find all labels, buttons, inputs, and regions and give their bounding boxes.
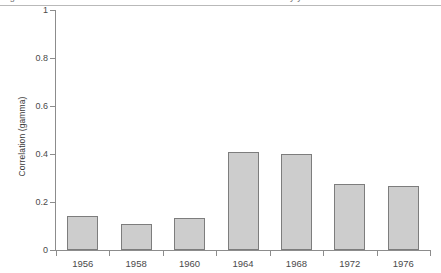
y-tick-mark [50, 154, 55, 155]
x-tick-mark [56, 251, 57, 256]
y-tick-label: 0.2 [6, 197, 48, 207]
bar [281, 154, 312, 250]
x-tick-label: 1972 [324, 258, 376, 269]
y-tick-mark [50, 10, 55, 11]
y-tick-mark [50, 202, 55, 203]
x-tick-label: 1976 [377, 258, 429, 269]
y-tick-label: 0 [6, 245, 48, 255]
y-tick-label-wrap: 0 [0, 245, 48, 255]
bar [121, 224, 152, 250]
y-tick-label-wrap: 0.6 [0, 101, 48, 111]
y-tick-mark [50, 250, 55, 251]
x-tick-label: 1956 [57, 258, 109, 269]
y-axis-line [55, 10, 56, 251]
x-axis-line [55, 250, 431, 251]
y-tick-label: 0.4 [6, 149, 48, 159]
bar [67, 216, 98, 250]
y-tick-label-wrap: 0.2 [0, 197, 48, 207]
x-tick-label: 1958 [110, 258, 162, 269]
y-tick-label: 1 [6, 5, 48, 15]
x-tick-mark [216, 251, 217, 256]
x-tick-mark [109, 251, 110, 256]
y-axis-title: Correlation (gamma) [14, 0, 30, 273]
x-tick-mark [163, 251, 164, 256]
y-tick-label: 0.8 [6, 53, 48, 63]
y-tick-mark [50, 106, 55, 107]
bar [174, 218, 205, 250]
y-tick-label-wrap: 0.8 [0, 53, 48, 63]
bar [388, 186, 419, 250]
y-tick-label-wrap: 0.4 [0, 149, 48, 159]
y-tick-label-wrap: 1 [0, 5, 48, 15]
x-tick-label: 1964 [217, 258, 269, 269]
bar [228, 152, 259, 250]
x-tick-mark [323, 251, 324, 256]
x-tick-label: 1960 [164, 258, 216, 269]
x-tick-label: 1968 [270, 258, 322, 269]
bar [334, 184, 365, 250]
x-tick-mark [377, 251, 378, 256]
y-tick-mark [50, 58, 55, 59]
x-tick-mark [430, 251, 431, 256]
bar-chart: Correlation (gamma) 00.20.40.60.81 19561… [0, 0, 441, 273]
y-tick-label: 0.6 [6, 101, 48, 111]
x-tick-mark [270, 251, 271, 256]
